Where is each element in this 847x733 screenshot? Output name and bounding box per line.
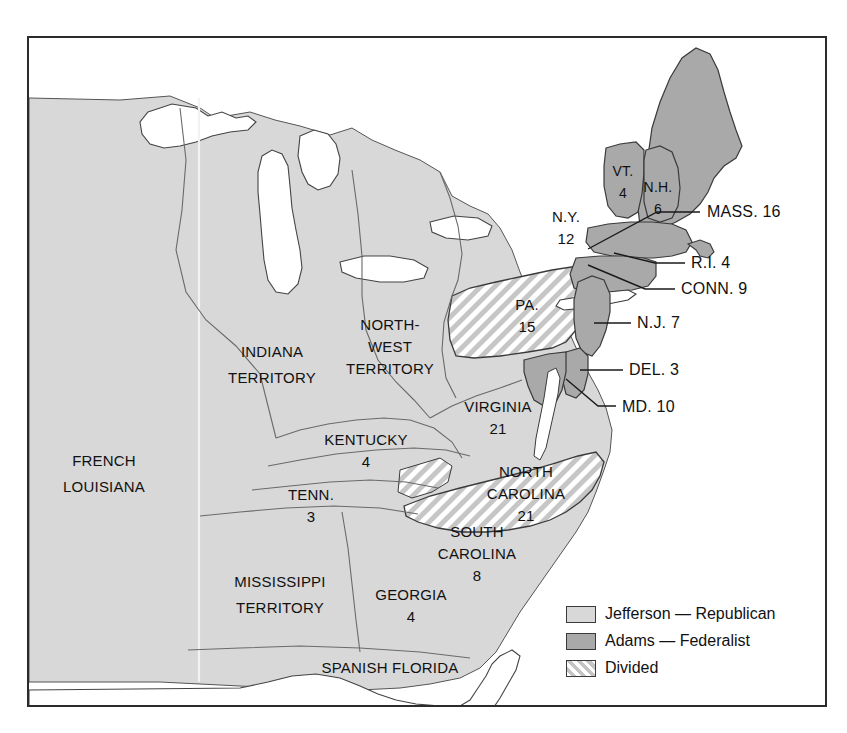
label-indiana-territory-line1: INDIANA [241,343,303,360]
label-georgia-votes: 4 [407,608,416,625]
label-northwest-territory-line3: TERRITORY [346,360,434,377]
legend-swatch-divided [566,660,596,677]
legend-swatch-jefferson [566,606,596,623]
label-new-york: N.Y. [552,208,580,225]
label-maryland: MD. 10 [622,398,675,415]
label-french-louisiana-line2: LOUISIANA [63,478,145,495]
label-mississippi-territory-line2: TERRITORY [236,599,324,616]
legend-label-jefferson: Jefferson — Republican [605,605,775,623]
label-north-carolina-line2: CAROLINA [487,485,565,502]
label-delaware: DEL. 3 [629,361,679,378]
label-spanish-florida: SPANISH FLORIDA [322,659,459,676]
label-kentucky: KENTUCKY [324,431,407,448]
label-vermont: VT. [613,163,634,179]
label-indiana-territory-line2: TERRITORY [228,369,316,386]
election-map-1800: FRENCH LOUISIANA INDIANA TERRITORY NORTH… [0,0,847,733]
label-massachusetts: MASS. 16 [707,203,781,220]
label-northwest-territory-line1: NORTH- [360,316,419,333]
label-new-york-votes: 12 [557,230,574,247]
label-south-carolina-line1: SOUTH [450,523,504,540]
label-north-carolina-votes: 21 [517,507,534,524]
label-kentucky-votes: 4 [362,453,371,470]
label-northwest-territory-line2: WEST [368,338,412,355]
label-rhode-island: R.I. 4 [691,254,730,271]
label-french-louisiana-line1: FRENCH [72,452,136,469]
label-georgia: GEORGIA [375,586,446,603]
legend-label-adams: Adams — Federalist [605,632,750,650]
legend-item-divided: Divided [566,655,806,681]
label-new-jersey: N.J. 7 [637,314,680,331]
legend-item-jefferson: Jefferson — Republican [566,601,806,627]
label-north-carolina-line1: NORTH [499,463,553,480]
label-tennessee: TENN. [288,486,334,503]
label-pennsylvania-votes: 15 [518,318,535,335]
label-virginia: VIRGINIA [464,398,531,415]
label-new-hampshire-votes: 6 [654,201,662,217]
label-virginia-votes: 21 [489,420,506,437]
legend-swatch-adams [566,633,596,650]
region-vermont [604,142,644,218]
label-pennsylvania: PA. [515,296,539,313]
label-tennessee-votes: 3 [307,508,316,525]
label-new-hampshire: N.H. [644,179,673,195]
label-mississippi-territory-line1: MISSISSIPPI [234,573,325,590]
legend-item-adams: Adams — Federalist [566,628,806,654]
label-connecticut: CONN. 9 [681,280,747,297]
map-legend: Jefferson — Republican Adams — Federalis… [566,601,806,683]
region-massachusetts-south [586,222,692,258]
label-vermont-votes: 4 [619,185,627,201]
legend-label-divided: Divided [605,659,658,677]
label-south-carolina-votes: 8 [473,567,482,584]
label-south-carolina-line2: CAROLINA [438,545,516,562]
